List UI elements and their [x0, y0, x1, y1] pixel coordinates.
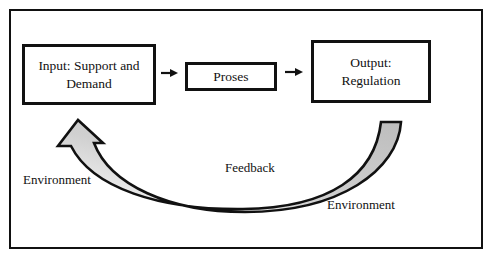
- proses-label: Proses: [213, 68, 248, 86]
- feedback-label: Feedback: [225, 160, 275, 176]
- input-label-line2: Demand: [38, 75, 139, 93]
- input-label-line1: Input: Support and: [38, 57, 139, 75]
- input-support-demand-box: Input: Support and Demand: [22, 44, 156, 105]
- environment-label-right: Environment: [327, 197, 395, 213]
- environment-label-left: Environment: [23, 172, 91, 188]
- output-regulation-box: Output: Regulation: [311, 40, 431, 103]
- output-label-line1: Output:: [341, 54, 400, 72]
- output-label-line2: Regulation: [341, 72, 400, 90]
- proses-box: Proses: [185, 62, 277, 91]
